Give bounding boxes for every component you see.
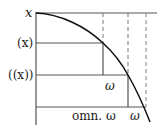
label-y-top: x (25, 5, 33, 20)
label-x-axis-left: omn. ω (72, 109, 116, 123)
diagram-canvas: x (x) ((x)) ω omn. ω ω (0, 0, 161, 126)
label-y-mid: (x) (17, 36, 33, 50)
label-y-low: ((x)) (8, 68, 34, 82)
label-x-axis-right: ω (130, 109, 140, 123)
label-omega-inner: ω (105, 79, 115, 93)
decreasing-curve (36, 13, 150, 122)
